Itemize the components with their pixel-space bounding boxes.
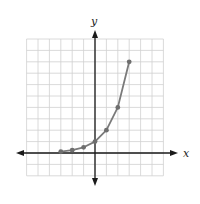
y-axis-arrow-down-icon	[92, 178, 98, 186]
x-axis-label: x	[183, 147, 190, 160]
y-axis-arrow-up-icon	[92, 30, 98, 38]
y-axis-label: y	[90, 15, 98, 28]
exponential-graph: x y	[0, 0, 200, 204]
x-axis-arrow-left-icon	[16, 150, 24, 156]
data-point	[58, 149, 63, 154]
data-point	[104, 128, 109, 133]
data-point	[70, 148, 75, 153]
data-point	[81, 145, 86, 150]
data-point	[93, 139, 98, 144]
data-point	[115, 105, 120, 110]
data-point	[127, 59, 132, 64]
x-axis-arrow-right-icon	[170, 150, 178, 156]
axes	[16, 30, 178, 186]
